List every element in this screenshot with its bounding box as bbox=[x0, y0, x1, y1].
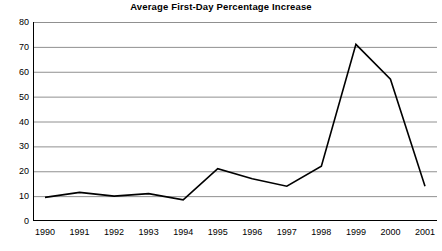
line-chart-svg bbox=[33, 22, 437, 221]
y-tick-label: 60 bbox=[1, 67, 29, 77]
plot-area bbox=[33, 22, 437, 221]
x-axis-tick-labels: 1990199119921993199419951996199719981999… bbox=[33, 227, 437, 243]
y-tick-label: 30 bbox=[1, 141, 29, 151]
x-tick-label: 1996 bbox=[242, 227, 262, 238]
y-tick-label: 0 bbox=[1, 216, 29, 226]
x-tick-label: 1994 bbox=[173, 227, 193, 238]
y-tick-label: 50 bbox=[1, 92, 29, 102]
x-tick-label: 1997 bbox=[277, 227, 297, 238]
x-tick-label: 1995 bbox=[208, 227, 228, 238]
y-tick-label: 80 bbox=[1, 17, 29, 27]
x-tick-label: 2001 bbox=[415, 227, 435, 238]
y-tick-label: 40 bbox=[1, 117, 29, 127]
y-tick-label: 70 bbox=[1, 42, 29, 52]
chart-title: Average First-Day Percentage Increase bbox=[0, 1, 442, 12]
x-tick-label: 1991 bbox=[70, 227, 90, 238]
gridlines bbox=[33, 23, 437, 197]
x-tick-label: 1993 bbox=[139, 227, 159, 238]
chart-figure: Average First-Day Percentage Increase 01… bbox=[0, 0, 442, 251]
y-axis-tick-labels: 01020304050607080 bbox=[0, 0, 29, 251]
x-tick-label: 2000 bbox=[380, 227, 400, 238]
x-tick-label: 1992 bbox=[104, 227, 124, 238]
x-tick-label: 1998 bbox=[311, 227, 331, 238]
x-tick-label: 1999 bbox=[346, 227, 366, 238]
x-tick-label: 1990 bbox=[35, 227, 55, 238]
y-tick-label: 10 bbox=[1, 191, 29, 201]
y-tick-label: 20 bbox=[1, 166, 29, 176]
